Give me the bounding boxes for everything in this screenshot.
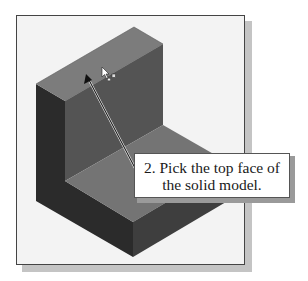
solid-model-figure [0, 0, 308, 281]
instruction-callout: 2. Pick the top face of the solid model. [134, 153, 290, 198]
callout-line-2: the solid model. [162, 176, 261, 193]
callout-line-1: 2. Pick the top face of [144, 159, 280, 176]
